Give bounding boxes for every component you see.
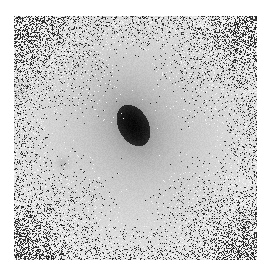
galaxy-image bbox=[14, 16, 257, 260]
galaxy-canvas bbox=[14, 16, 257, 260]
